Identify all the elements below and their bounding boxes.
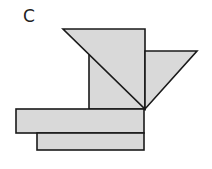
upper-bar [16,109,144,133]
tangram-figure [0,0,212,169]
right-triangle [145,51,197,109]
lower-bar [37,133,144,150]
